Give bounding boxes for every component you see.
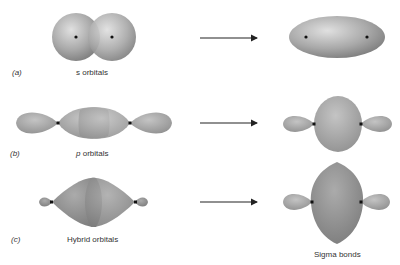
- s-orbitals-group: [52, 13, 136, 61]
- sigma-bond-a: [289, 16, 385, 58]
- s-orbitals-text: s orbitals: [76, 68, 108, 77]
- nucleus-dot: [365, 35, 368, 38]
- sigma-bonds-label: Sigma bonds: [314, 250, 361, 259]
- part-label-a: (a): [12, 68, 22, 77]
- s-orbitals-label: s orbitals: [95, 68, 127, 77]
- nucleus-dot: [313, 123, 316, 126]
- p-orbitals-label: p orbitals: [76, 149, 108, 158]
- nucleus-dot: [57, 122, 60, 125]
- nucleus-dot: [129, 122, 132, 125]
- nucleus-dot: [110, 35, 113, 38]
- nucleus-dot: [311, 201, 314, 204]
- sigma-bond-b: [283, 96, 392, 152]
- nucleus-dot: [304, 35, 307, 38]
- orbitals-text: orbitals: [80, 149, 108, 158]
- orbital-overlap-diagram: [0, 0, 400, 265]
- nucleus-dot: [50, 201, 53, 204]
- nucleus-dot: [360, 201, 363, 204]
- nucleus-dot: [134, 201, 137, 204]
- hybrid-orbitals-label: Hybrid orbitals: [67, 235, 118, 244]
- hybrid-orbitals-group: [39, 178, 148, 227]
- p-orbitals-group: [16, 107, 172, 138]
- nucleus-dot: [360, 123, 363, 126]
- sigma-bond-c: [283, 162, 390, 244]
- nucleus-dot: [74, 35, 77, 38]
- part-label-b: (b): [10, 149, 20, 158]
- part-label-c: (c): [11, 235, 20, 244]
